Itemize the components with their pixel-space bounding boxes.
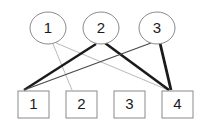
bottom-node-label-2: 2 xyxy=(77,95,85,112)
top-node-1[interactable]: 1 xyxy=(30,12,66,44)
edge-t1-b2 xyxy=(53,44,72,90)
edge-layer xyxy=(24,43,171,90)
edge-t2-b4 xyxy=(105,43,169,90)
top-node-3[interactable]: 3 xyxy=(139,12,175,44)
top-node-label-1: 1 xyxy=(44,19,52,36)
top-node-layer: 123 xyxy=(30,12,175,44)
top-node-label-2: 2 xyxy=(97,19,105,36)
bottom-node-3[interactable]: 3 xyxy=(114,91,145,118)
bipartite-graph: 123 1234 xyxy=(0,0,206,126)
bottom-node-label-3: 3 xyxy=(125,95,133,112)
edge-t1-b4 xyxy=(56,43,168,90)
bottom-node-2[interactable]: 2 xyxy=(66,91,97,118)
bottom-node-1[interactable]: 1 xyxy=(18,91,49,118)
bottom-node-4[interactable]: 4 xyxy=(162,91,193,118)
top-node-label-3: 3 xyxy=(153,19,161,36)
diagram-canvas: 123 1234 xyxy=(0,0,206,126)
bottom-node-layer: 1234 xyxy=(18,91,193,118)
edge-t3-b4 xyxy=(160,43,171,90)
top-node-2[interactable]: 2 xyxy=(83,12,119,44)
bottom-node-label-1: 1 xyxy=(29,95,37,112)
bottom-node-label-4: 4 xyxy=(173,95,181,112)
